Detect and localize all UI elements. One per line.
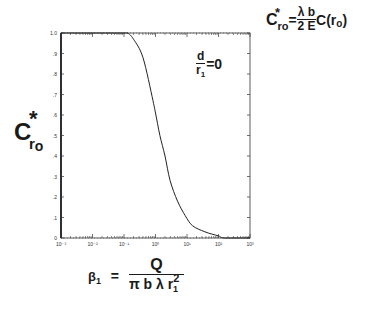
definition-formula-top: C*ro = λ b 2 E C(ro) <box>266 6 347 33</box>
x-tick-label: 10⁻¹ <box>119 241 130 247</box>
y-axis-label-sub: ro <box>29 135 43 152</box>
y-tick-label: .1 <box>53 215 57 221</box>
x-tick-label: 10¹ <box>183 241 191 247</box>
x-axis-label: β1 = Q π b λ r12 <box>88 256 184 295</box>
x-tick-label: 10⁻² <box>87 241 98 247</box>
y-axis-label-star: * <box>29 106 38 132</box>
top-formula-denominator: 2 E <box>297 20 316 33</box>
y-tick-label: .2 <box>53 194 57 200</box>
y-tick-label: .3 <box>53 174 57 180</box>
y-tick-label: .6 <box>53 112 57 118</box>
y-tick-label: .5 <box>53 133 57 139</box>
y-axis-label: C*ro <box>14 118 31 146</box>
y-tick-label: .9 <box>53 51 57 57</box>
x-tick-label: 10⁻³ <box>56 241 67 247</box>
curve-annotation: d r1 =0 <box>196 50 222 78</box>
top-formula-numerator: λ b <box>297 6 316 20</box>
annotation-equals: =0 <box>206 56 222 72</box>
chart: 0.1.2.3.4.5.6.7.8.91.0 10⁻³10⁻²10⁻¹10⁰10… <box>0 0 373 309</box>
annotation-numerator: d <box>196 50 205 64</box>
y-tick-label: .7 <box>53 92 57 98</box>
x-tick-labels: 10⁻³10⁻²10⁻¹10⁰10¹10²10³ <box>56 241 254 247</box>
annotation-denominator: r1 <box>196 64 205 78</box>
y-tick-label: .8 <box>53 71 57 77</box>
y-tick-label: .4 <box>53 153 57 159</box>
x-tick-label: 10² <box>215 241 223 247</box>
x-tick-label: 10⁰ <box>152 241 160 247</box>
y-tick-labels: 0.1.2.3.4.5.6.7.8.91.0 <box>50 30 57 241</box>
y-tick-label: 1.0 <box>50 30 57 36</box>
bottom-formula-denominator: π b λ r12 <box>129 275 184 295</box>
x-tick-label: 10³ <box>246 241 254 247</box>
